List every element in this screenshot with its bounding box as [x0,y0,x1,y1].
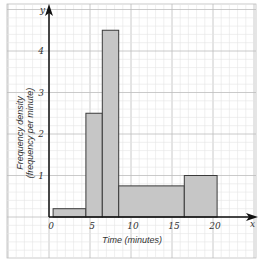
x-axis-letter: x [250,219,255,229]
histogram-bar [184,176,217,218]
x-tick-label: 0 [48,221,54,231]
y-axis-title-line1: Frequency density [15,96,25,170]
histogram-bar [53,209,86,217]
histogram-chart: 051015201234 Time (minutes) Frequency de… [0,0,264,265]
x-tick-label: 10 [127,221,139,231]
x-tick-label: 20 [208,221,221,231]
y-tick-label: 4 [37,46,44,56]
y-axis-title-line2: (frequency per minute) [25,88,35,179]
x-tick-label: 15 [168,221,180,231]
y-axis-letter: y [39,5,46,15]
x-tick-label: 5 [89,221,95,231]
y-tick-label: 2 [37,129,44,139]
y-axis-title: Frequency density (frequency per minute) [15,88,35,179]
histogram-bar [102,30,118,217]
histogram-bar [86,113,102,217]
y-tick-label: 3 [38,88,44,98]
y-tick-label: 1 [38,171,44,181]
x-axis-title: Time (minutes) [102,235,162,245]
grid [7,4,256,258]
histogram-bar [119,186,185,217]
